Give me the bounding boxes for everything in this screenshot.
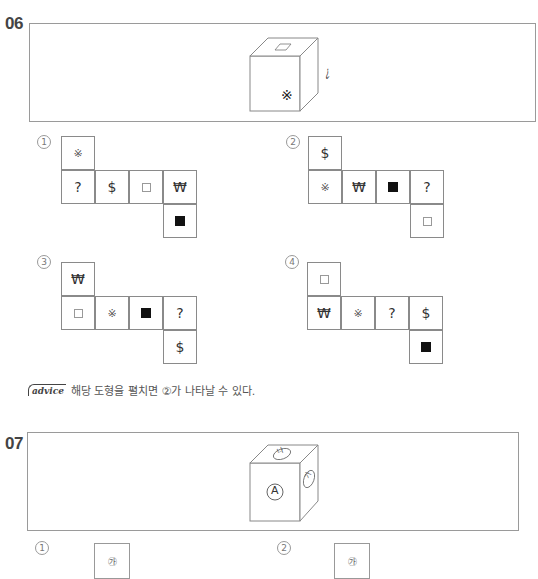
net-cell: ?: [375, 296, 409, 330]
net-cell: ※: [61, 136, 95, 170]
net-cell: ※: [341, 296, 375, 330]
net-cell: $: [95, 170, 129, 204]
dollar-symbol: $: [422, 305, 431, 321]
open-square-icon: [320, 275, 329, 284]
net-cell: [307, 262, 341, 296]
net-cell: ?: [410, 170, 444, 204]
net-cell: [410, 204, 444, 238]
net-cell: ₩: [163, 170, 197, 204]
option-1-net[interactable]: ㉮: [94, 543, 130, 579]
reference-mark-icon: ※: [73, 147, 82, 160]
question-mark-symbol: ?: [176, 305, 183, 321]
dollar-symbol: $: [108, 179, 117, 195]
question-mark-symbol: ?: [423, 179, 430, 195]
net-cell: ₩: [307, 296, 341, 330]
question-figure-box: A 나 가: [27, 432, 519, 531]
question-figure-box: ※ ¿: [29, 23, 536, 122]
net-cell: [163, 204, 197, 238]
question-mark-symbol: ?: [388, 305, 395, 321]
option-2-label[interactable]: 2: [286, 135, 300, 149]
cube-front-symbol: A: [271, 484, 279, 497]
won-symbol: ₩: [173, 179, 187, 195]
net-cell: [129, 170, 163, 204]
net-cell: [129, 296, 163, 330]
net-cell: [61, 296, 95, 330]
net-cell: $: [409, 296, 443, 330]
advice-badge: advice: [28, 384, 66, 396]
net-cell-symbol: ㉮: [348, 555, 357, 568]
option-1-label[interactable]: 1: [37, 135, 51, 149]
net-cell: ?: [61, 170, 95, 204]
question-number: 07: [5, 434, 23, 454]
net-cell: ₩: [342, 170, 376, 204]
advice-note: advice 해당 도형을 펼치면 ②가 나타날 수 있다.: [28, 382, 255, 398]
reference-mark-icon: ※: [353, 307, 362, 320]
open-square-icon: [142, 183, 151, 192]
option-3-label[interactable]: 3: [37, 255, 51, 269]
filled-square-icon: [421, 342, 431, 352]
net-cell: ※: [308, 170, 342, 204]
cube-figure: [240, 28, 330, 118]
filled-square-icon: [141, 308, 151, 318]
option-1-label[interactable]: 1: [35, 541, 49, 555]
net-cell: ₩: [61, 262, 95, 296]
dollar-symbol: $: [176, 339, 185, 355]
open-square-icon: [423, 217, 432, 226]
reference-mark-icon: ※: [320, 181, 329, 194]
dollar-symbol: $: [321, 145, 330, 161]
net-cell: $: [163, 330, 197, 364]
net-cell: [409, 330, 443, 364]
won-symbol: ₩: [352, 179, 366, 195]
open-square-icon: [74, 309, 83, 318]
option-4-label[interactable]: 4: [285, 255, 299, 269]
won-symbol: ₩: [317, 305, 331, 321]
advice-text: 해당 도형을 펼치면 ②가 나타날 수 있다.: [71, 382, 255, 398]
filled-square-icon: [388, 182, 398, 192]
net-cell: [376, 170, 410, 204]
option-2-label[interactable]: 2: [277, 541, 291, 555]
net-cell-symbol: ㉮: [108, 555, 117, 568]
net-cell: ※: [95, 296, 129, 330]
cube-front-symbol: ※: [281, 87, 293, 103]
net-cell: $: [308, 136, 342, 170]
filled-square-icon: [175, 216, 185, 226]
net-cell: ?: [163, 296, 197, 330]
reference-mark-icon: ※: [107, 307, 116, 320]
question-mark-symbol: ?: [74, 179, 81, 195]
option-2-net[interactable]: ㉮: [334, 543, 370, 579]
question-number: 06: [5, 14, 23, 34]
cube-right-symbol: ¿: [325, 63, 329, 81]
won-symbol: ₩: [71, 271, 85, 287]
